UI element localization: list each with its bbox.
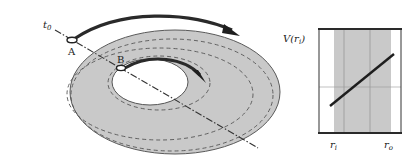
point-a-label: A [67,46,76,57]
velocity-graph: V(ri) ri ro [283,29,402,152]
outer-arrowhead [222,24,240,36]
disk-rotation-figure: A B t0 V(ri) ri ro [0,0,418,167]
x-tick-outer: ro [384,139,393,152]
time-label: t0 [43,19,52,32]
graph-y-label: V(ri) [283,33,305,46]
point-b-label: B [117,54,124,65]
point-b-marker [117,65,126,70]
x-tick-inner: ri [330,139,337,152]
point-a-marker [67,37,77,43]
